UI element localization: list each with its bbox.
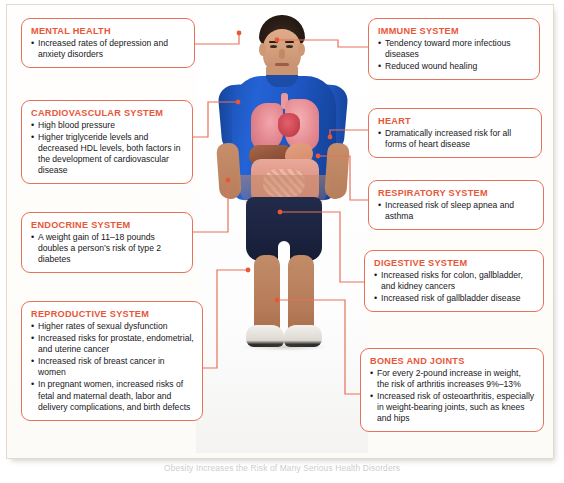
callout-item: Increased risk of gallbladder disease: [374, 293, 535, 304]
callout-title-endocrine-system: ENDOCRINE SYSTEM: [31, 219, 184, 231]
callout-mental-health[interactable]: MENTAL HEALTH Increased rates of depress…: [21, 18, 195, 68]
callout-title-bones-and-joints: BONES AND JOINTS: [370, 355, 535, 367]
subject-photograph: [196, 5, 368, 453]
subject-ear-right: [298, 43, 305, 56]
callout-list-endocrine-system: A weight gain of 11–18 pounds doubles a …: [31, 232, 184, 265]
callout-list-reproductive-system: Higher rates of sexual dysfunction Incre…: [31, 321, 194, 413]
callout-item: For every 2-pound increase in weight, th…: [370, 368, 535, 390]
subject-mouth: [275, 63, 289, 66]
callout-list-respiratory-system: Increased risk of sleep apnea and asthma: [378, 200, 535, 222]
callout-title-digestive-system: DIGESTIVE SYSTEM: [374, 257, 535, 269]
subject-ear-left: [259, 43, 266, 56]
callout-item: Increased rates of depression and anxiet…: [31, 38, 186, 60]
callout-item: Increased risks for prostate, endometria…: [31, 333, 194, 355]
subject-ground-shadow: [242, 343, 328, 351]
callout-item: High blood pressure: [31, 120, 184, 131]
callout-item: Higher rates of sexual dysfunction: [31, 321, 194, 332]
callout-list-cardiovascular-system: High blood pressure Higher triglyceride …: [31, 120, 184, 176]
figure-caption: Obesity Increases the Risk of Many Serio…: [0, 463, 564, 473]
callout-item: Increased risk of breast cancer in women: [31, 356, 194, 378]
callout-digestive-system[interactable]: DIGESTIVE SYSTEM Increased risks for col…: [364, 250, 544, 312]
subject-eye-left: [270, 45, 277, 48]
callout-item: Increased risks for colon, gallbladder, …: [374, 270, 535, 292]
subject-nose: [279, 49, 285, 59]
callout-item: In pregnant women, increased risks of fe…: [31, 379, 194, 412]
callout-item: Increased risk of sleep apnea and asthma: [378, 200, 535, 222]
obesity-health-effects-figure: MENTAL HEALTH Increased rates of depress…: [0, 0, 564, 483]
callout-item: Higher triglyceride levels and decreased…: [31, 132, 184, 176]
callout-item: Increased risk of osteoarthritis, especi…: [370, 391, 535, 424]
subject-arm-left: [216, 142, 242, 199]
subject-leg-right: [288, 255, 314, 333]
callout-list-mental-health: Increased rates of depression and anxiet…: [31, 38, 186, 60]
callout-item: Tendency toward more infectious diseases: [378, 38, 531, 60]
callout-title-heart: HEART: [378, 115, 533, 127]
callout-immune-system[interactable]: IMMUNE SYSTEM Tendency toward more infec…: [368, 18, 540, 80]
subject-leg-left: [254, 255, 280, 333]
callout-bones-and-joints[interactable]: BONES AND JOINTS For every 2-pound incre…: [360, 348, 544, 432]
callout-list-digestive-system: Increased risks for colon, gallbladder, …: [374, 270, 535, 304]
callout-cardiovascular-system[interactable]: CARDIOVASCULAR SYSTEM High blood pressur…: [21, 100, 193, 184]
callout-list-heart: Dramatically increased risk for all form…: [378, 128, 533, 150]
callout-respiratory-system[interactable]: RESPIRATORY SYSTEM Increased risk of sle…: [368, 180, 544, 230]
callout-item: A weight gain of 11–18 pounds doubles a …: [31, 232, 184, 265]
callout-title-mental-health: MENTAL HEALTH: [31, 25, 186, 37]
callout-heart[interactable]: HEART Dramatically increased risk for al…: [368, 108, 542, 158]
callout-reproductive-system[interactable]: REPRODUCTIVE SYSTEM Higher rates of sexu…: [21, 301, 203, 421]
callout-title-cardiovascular-system: CARDIOVASCULAR SYSTEM: [31, 107, 184, 119]
callout-list-bones-and-joints: For every 2-pound increase in weight, th…: [370, 368, 535, 424]
subject-eyebrow-left: [269, 41, 278, 43]
subject-eyebrow-right: [285, 41, 294, 43]
heart-illustration: [278, 113, 300, 137]
callout-item: Dramatically increased risk for all form…: [378, 128, 533, 150]
callout-endocrine-system[interactable]: ENDOCRINE SYSTEM A weight gain of 11–18 …: [21, 212, 193, 273]
callout-title-immune-system: IMMUNE SYSTEM: [378, 25, 531, 37]
callout-title-reproductive-system: REPRODUCTIVE SYSTEM: [31, 308, 194, 320]
callout-item: Reduced wound healing: [378, 61, 531, 72]
callout-list-immune-system: Tendency toward more infectious diseases…: [378, 38, 531, 72]
callout-title-respiratory-system: RESPIRATORY SYSTEM: [378, 187, 535, 199]
subject-eye-right: [286, 45, 293, 48]
